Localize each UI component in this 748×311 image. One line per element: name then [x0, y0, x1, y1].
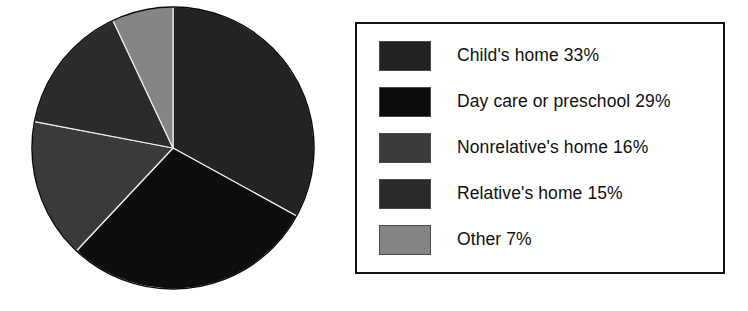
legend-item: Child's home 33% [357, 33, 723, 79]
pie-svg [0, 0, 330, 311]
legend: Child's home 33%Day care or preschool 29… [355, 22, 725, 274]
legend-item-label: Nonrelative's home 16% [457, 139, 648, 157]
pie-chart-figure: Child's home 33%Day care or preschool 29… [0, 0, 748, 311]
legend-item: Day care or preschool 29% [357, 79, 723, 125]
legend-swatch [379, 179, 431, 209]
legend-item-label: Relative's home 15% [457, 185, 623, 203]
legend-item: Other 7% [357, 217, 723, 263]
legend-item-label: Other 7% [457, 231, 532, 249]
pie-slices [32, 7, 314, 289]
legend-items: Child's home 33%Day care or preschool 29… [357, 24, 723, 272]
legend-swatch [379, 225, 431, 255]
legend-swatch [379, 87, 431, 117]
legend-swatch [379, 133, 431, 163]
legend-swatch [379, 41, 431, 71]
legend-item-label: Day care or preschool 29% [457, 93, 671, 111]
pie-chart [0, 0, 330, 311]
legend-item: Nonrelative's home 16% [357, 125, 723, 171]
legend-item: Relative's home 15% [357, 171, 723, 217]
legend-item-label: Child's home 33% [457, 47, 599, 65]
